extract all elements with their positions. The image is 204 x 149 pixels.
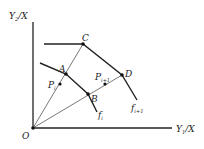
label-pi-plus-1: Pi+1 [94, 72, 110, 83]
label-d: D [124, 69, 132, 79]
label-pi: Pi [47, 80, 56, 91]
label-f-i-plus-1: fi+1 [130, 103, 143, 114]
origin-label: O [22, 131, 30, 141]
label-f-i: fi [97, 110, 103, 121]
point-d [120, 73, 124, 77]
label-b: B [90, 94, 98, 104]
y-axis-label: Y2/X [9, 11, 28, 22]
ray-oc [33, 44, 83, 128]
x-axis-label: Y1/X [176, 124, 195, 135]
point-pi [58, 82, 61, 85]
label-c: C [82, 33, 89, 43]
label-a: A [58, 64, 66, 74]
diagram-canvas: Y2/X Y1/X O C A B D Pi Pi+1 fi fi+1 [0, 0, 204, 149]
point-origin [31, 126, 35, 130]
point-b [86, 92, 90, 96]
frontier-f-i-plus-1 [44, 44, 137, 100]
